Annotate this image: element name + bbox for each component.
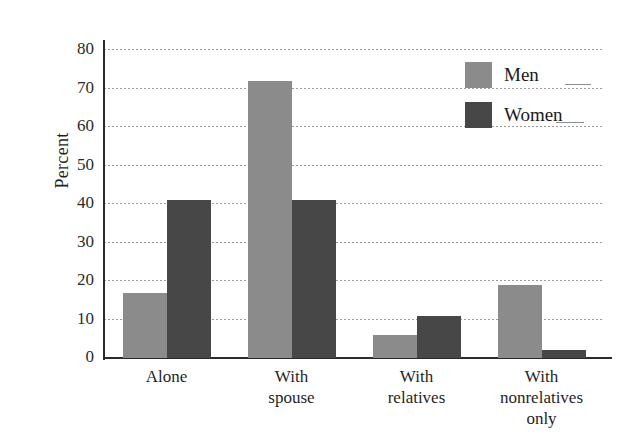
y-tick-label-80: 80	[46, 39, 94, 59]
x-category-label-1: Withspouse	[222, 366, 362, 408]
edge-artifact-dash-2	[556, 122, 584, 123]
bar-chart: 01020304050607080 Percent AloneWithspous…	[0, 0, 637, 445]
x-category-label-0: Alone	[97, 366, 237, 387]
legend: MenWomen	[465, 62, 615, 142]
bar-men-1	[248, 81, 292, 358]
bar-men-2	[373, 335, 417, 358]
legend-item-men: Men	[465, 62, 615, 88]
y-tick-label-30: 30	[46, 232, 94, 252]
y-tick-label-10: 10	[46, 309, 94, 329]
bar-women-2	[417, 316, 461, 358]
bar-women-1	[292, 200, 336, 358]
legend-label-women: Women	[504, 104, 563, 126]
bar-women-3	[542, 350, 586, 358]
legend-label-men: Men	[504, 64, 539, 86]
x-category-line: nonrelatives	[472, 387, 612, 408]
bar-women-0	[167, 200, 211, 358]
x-category-line: Alone	[97, 366, 237, 387]
legend-swatch-men	[465, 62, 492, 88]
edge-artifact-dash-1	[565, 84, 591, 85]
y-axis-title: Percent	[52, 91, 73, 231]
legend-swatch-women	[465, 102, 492, 128]
bar-men-0	[123, 293, 167, 358]
legend-item-women: Women	[465, 102, 615, 128]
x-category-line: only	[472, 408, 612, 429]
chart-title-cropped	[0, 0, 637, 4]
x-category-line: relatives	[347, 387, 487, 408]
y-tick-label-20: 20	[46, 270, 94, 290]
x-category-line: spouse	[222, 387, 362, 408]
x-category-line: With	[222, 366, 362, 387]
bar-men-3	[498, 285, 542, 358]
x-category-label-3: Withnonrelativesonly	[472, 366, 612, 429]
x-category-line: With	[472, 366, 612, 387]
x-category-line: With	[347, 366, 487, 387]
x-category-label-2: Withrelatives	[347, 366, 487, 408]
y-tick-label-0: 0	[46, 347, 94, 367]
